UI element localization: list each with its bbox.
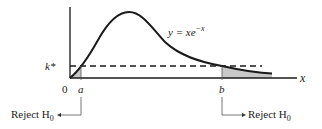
- curve-label: y = xe−x: [167, 24, 205, 38]
- threshold-label: k*: [45, 60, 56, 72]
- density-curve: [70, 12, 272, 78]
- origin-label: 0: [62, 83, 68, 95]
- right-reject-leader: [222, 97, 244, 115]
- right-arrowhead: [242, 113, 246, 117]
- left-arrowhead: [57, 113, 61, 117]
- right-reject-label: Reject H0: [248, 108, 291, 123]
- point-a-label: a: [78, 83, 84, 95]
- left-reject-label: Reject H0: [11, 108, 54, 123]
- left-reject-leader: [59, 97, 81, 115]
- density-diagram: y = xe−x x 0 k* a b Reject H0 Reject H0: [0, 0, 322, 129]
- point-b-label: b: [219, 83, 225, 95]
- x-axis-label: x: [299, 71, 306, 85]
